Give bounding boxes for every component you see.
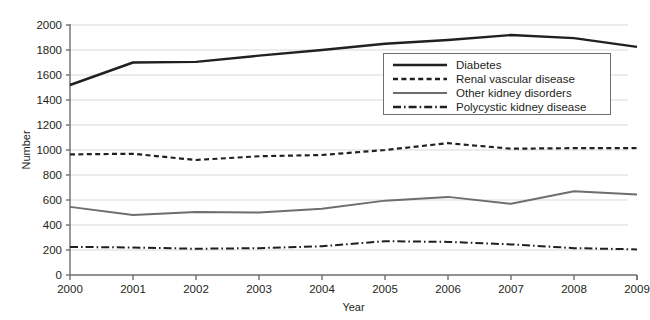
y-tick-label: 1800 [36, 44, 62, 56]
legend-item-diabetes: Diabetes [391, 58, 604, 72]
legend-label-other-kidney-disorders: Other kidney disorders [456, 87, 572, 100]
y-tick-label: 0 [56, 269, 62, 281]
y-tick-label: 2000 [36, 19, 62, 31]
x-tick-label: 2008 [561, 283, 587, 295]
legend-label-polycystic-kidney-disease: Polycystic kidney disease [456, 101, 586, 114]
x-tick-label: 2001 [120, 283, 146, 295]
chart-legend: Diabetes Renal vascular disease Other ki… [383, 53, 611, 115]
line-chart: 0200400600800100012001400160018002000200… [0, 0, 650, 320]
chart-plot-area: 0200400600800100012001400160018002000200… [0, 0, 650, 320]
legend-label-renal-vascular-disease: Renal vascular disease [456, 73, 575, 86]
x-tick-label: 2003 [246, 283, 272, 295]
y-tick-label: 200 [43, 244, 62, 256]
x-tick-label: 2002 [183, 283, 209, 295]
legend-item-renal-vascular-disease: Renal vascular disease [391, 72, 604, 86]
legend-swatch-diabetes [391, 59, 449, 71]
x-tick-label: 2006 [435, 283, 461, 295]
y-tick-label: 1400 [36, 94, 62, 106]
legend-swatch-renal-vascular-disease [391, 73, 449, 85]
x-axis-title: Year [342, 301, 365, 313]
y-tick-label: 800 [43, 169, 62, 181]
y-tick-label: 400 [43, 219, 62, 231]
y-tick-label: 1600 [36, 69, 62, 81]
series-line [70, 143, 637, 160]
x-tick-label: 2005 [372, 283, 398, 295]
x-tick-label: 2007 [498, 283, 524, 295]
series-line [70, 191, 637, 215]
y-tick-label: 1200 [36, 119, 62, 131]
y-tick-label: 600 [43, 194, 62, 206]
legend-label-diabetes: Diabetes [456, 59, 501, 72]
legend-item-polycystic-kidney-disease: Polycystic kidney disease [391, 100, 604, 114]
x-tick-label: 2009 [624, 283, 650, 295]
series-line [70, 241, 637, 249]
x-tick-label: 2004 [309, 283, 335, 295]
legend-swatch-polycystic-kidney-disease [391, 101, 449, 113]
x-tick-label: 2000 [57, 283, 83, 295]
y-axis-title: Number [20, 130, 32, 169]
y-tick-label: 1000 [36, 144, 62, 156]
legend-swatch-other-kidney-disorders [391, 87, 449, 99]
legend-item-other-kidney-disorders: Other kidney disorders [391, 86, 604, 100]
